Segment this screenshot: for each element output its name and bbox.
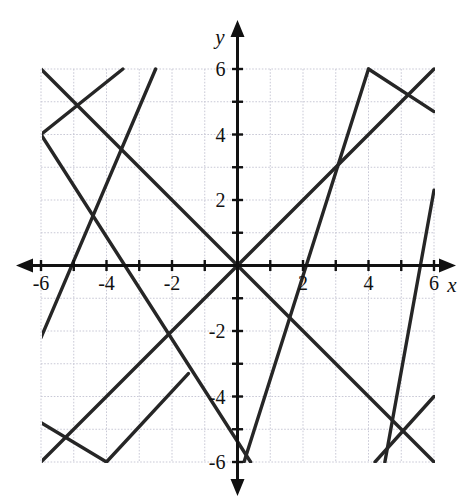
coordinate-plane-svg: 246-6-4-2246-2-4-6 x y xyxy=(0,0,470,503)
graph-line-segment xyxy=(385,190,434,462)
y-tick-label: 2 xyxy=(216,189,226,211)
graph-figure: 246-6-4-2246-2-4-6 x y xyxy=(0,0,470,503)
y-tick-label: 6 xyxy=(216,58,226,80)
y-axis-arrow-down xyxy=(231,479,245,496)
y-tick-label: -2 xyxy=(209,320,226,342)
x-axis-arrow-right xyxy=(439,259,456,273)
x-tick-label: 6 xyxy=(429,272,439,294)
y-tick-label: -4 xyxy=(209,386,226,408)
x-axis-arrow-left xyxy=(16,259,33,273)
x-tick-label: -6 xyxy=(33,272,50,294)
x-tick-label: -2 xyxy=(164,272,181,294)
x-tick-label: -4 xyxy=(98,272,115,294)
graph-line-segment xyxy=(41,69,156,338)
y-axis-arrow-up xyxy=(231,20,245,37)
x-tick-label: 2 xyxy=(298,272,308,294)
graph-line-segment xyxy=(41,135,251,463)
x-tick-label: 4 xyxy=(364,272,374,294)
y-tick-label: -6 xyxy=(209,451,226,473)
y-tick-label: 4 xyxy=(216,124,226,146)
graph-line-segment xyxy=(41,69,123,135)
y-axis-label: y xyxy=(213,25,225,49)
x-axis-label: x xyxy=(446,273,457,297)
graph-line-segment xyxy=(107,374,189,462)
